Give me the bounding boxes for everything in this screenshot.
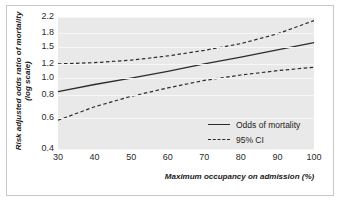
gridline [58,47,314,48]
legend-item-odds-of-mortality: Odds of mortality [208,118,300,131]
gridline [58,33,314,34]
legend-label: Odds of mortality [236,120,300,130]
dashed-line-swatch-icon [208,139,230,140]
gridline [58,95,314,96]
y-axis-title: Risk adjusted odds ratio of mortality (l… [14,6,32,156]
gridline [58,64,314,65]
chart-legend: Odds of mortality 95% CI [208,118,300,148]
solid-line-swatch-icon [208,124,230,125]
x-axis-title: Maximum occupancy on admission (%) [152,172,327,181]
chart-figure: 0.40.60.81.01.21.51.82.2 304050607080901… [0,0,341,203]
gridline [58,17,314,18]
legend-item-95-ci: 95% CI [208,133,300,146]
gridline [58,78,314,79]
legend-label: 95% CI [236,135,264,145]
gridline [58,149,314,150]
